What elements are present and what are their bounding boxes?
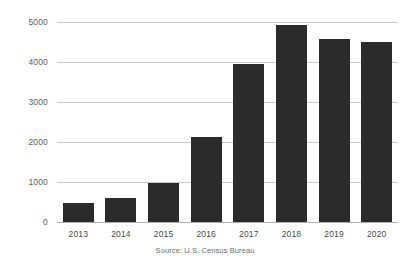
y-axis-tick-label: 5000 xyxy=(28,17,48,27)
bar xyxy=(233,64,264,222)
y-axis-tick-label: 0 xyxy=(43,217,48,227)
bar xyxy=(63,203,94,222)
bar-chart-figure: 010002000300040005000 201320142015201620… xyxy=(0,0,410,270)
x-axis-tick-label: 2014 xyxy=(111,229,131,239)
x-axis-tick-label: 2015 xyxy=(154,229,174,239)
plot-area: 010002000300040005000 201320142015201620… xyxy=(57,22,398,222)
bar xyxy=(276,25,307,222)
bar xyxy=(361,42,392,222)
bar xyxy=(148,183,179,222)
gridline-0 xyxy=(57,222,398,223)
x-axis-tick-label: 2013 xyxy=(69,229,89,239)
bar xyxy=(319,39,350,222)
y-axis-tick-label: 1000 xyxy=(28,177,48,187)
x-axis-tick-label: 2018 xyxy=(282,229,302,239)
x-axis-tick-label: 2017 xyxy=(239,229,259,239)
y-axis-tick-label: 4000 xyxy=(28,57,48,67)
bars-layer xyxy=(57,22,398,222)
x-axis-tick-label: 2019 xyxy=(324,229,344,239)
y-axis-tick-label: 3000 xyxy=(28,97,48,107)
bar xyxy=(105,198,136,222)
x-axis-tick-label: 2016 xyxy=(196,229,216,239)
bar xyxy=(191,137,222,222)
source-note: Source: U.S. Census Bureau xyxy=(0,246,410,255)
x-axis-tick-label: 2020 xyxy=(367,229,387,239)
y-axis-tick-label: 2000 xyxy=(28,137,48,147)
